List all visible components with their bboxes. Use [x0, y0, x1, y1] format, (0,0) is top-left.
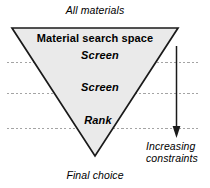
down-arrow-icon: [173, 46, 181, 138]
materials-selection-funnel-figure: All materials Material search space Scre…: [0, 0, 210, 188]
arrow-caption-line-1: Increasing: [146, 140, 198, 152]
funnel-header-material-search-space: Material search space: [37, 32, 153, 44]
stage-label-screen-2: Screen: [81, 81, 119, 93]
bottom-caption-final-choice: Final choice: [66, 170, 123, 182]
arrow-caption-increasing-constraints: Increasing constraints: [146, 140, 198, 165]
top-caption-all-materials: All materials: [66, 5, 124, 17]
arrow-caption-line-2: constraints: [146, 152, 198, 164]
stage-label-rank: Rank: [84, 114, 112, 126]
stage-label-screen-1: Screen: [81, 49, 119, 61]
